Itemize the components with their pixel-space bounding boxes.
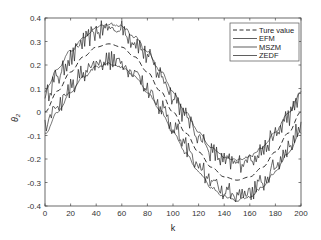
y-tick-label: -0.2 (27, 155, 41, 164)
x-tick-label: 160 (243, 209, 257, 218)
y-axis-label-sub: 2 (15, 113, 21, 118)
x-tick-label: 100 (166, 209, 180, 218)
x-tick-label: 40 (92, 209, 101, 218)
x-tick-label: 180 (269, 209, 283, 218)
x-tick-label: 80 (143, 209, 152, 218)
x-tick-label: 20 (66, 209, 75, 218)
x-axis-label: k (171, 223, 176, 233)
legend-label-zedf: ZEDF (259, 51, 279, 60)
y-tick-label: 0.4 (30, 14, 42, 23)
y-tick-label: 0.3 (30, 38, 42, 47)
x-tick-label: 120 (192, 209, 206, 218)
x-tick-label: 140 (218, 209, 232, 218)
legend: Ture value EFM MSZM ZEDF (230, 23, 299, 61)
y-tick-label: 0.2 (30, 61, 42, 70)
x-tick-label: 0 (43, 209, 48, 218)
y-tick-label: -0.4 (27, 202, 41, 211)
chart: 020406080100120140160180200 0.40.30.20.1… (0, 0, 321, 240)
x-tick-label: 200 (294, 209, 308, 218)
x-tick-label: 60 (117, 209, 126, 218)
y-tick-label: -0.3 (27, 179, 41, 188)
y-tick-label: -0.1 (27, 132, 41, 141)
y-tick-label: 0.1 (30, 85, 42, 94)
y-tick-label: 0 (37, 108, 42, 117)
